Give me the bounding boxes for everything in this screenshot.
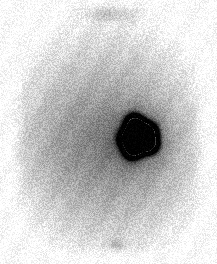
scintigraphy-scan-image xyxy=(0,0,217,264)
scintigraphy-image-viewport xyxy=(0,0,217,264)
